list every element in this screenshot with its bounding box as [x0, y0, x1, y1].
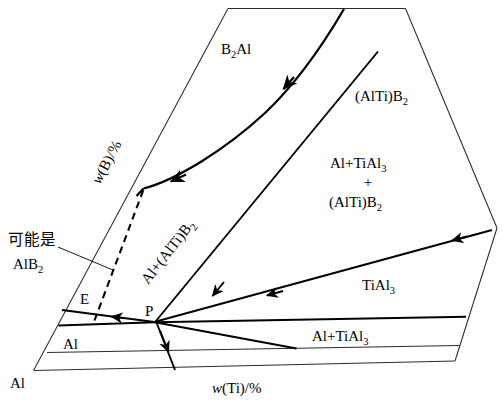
region-label-al: Al: [63, 336, 78, 352]
x-axis-label-w: w: [212, 380, 222, 396]
region-label-al-tial3-main: Al+TiAl: [312, 328, 363, 344]
region-label-tial3: TiAl3: [362, 277, 395, 296]
rl3-plus: +: [364, 174, 372, 190]
rl3-line1-main: Al+TiAl: [330, 155, 381, 171]
svg-text:(AlTi)B2: (AlTi)B2: [355, 88, 408, 107]
svg-text:AlB2: AlB2: [13, 256, 43, 275]
possible-alb2-boundary: [95, 186, 146, 321]
axis-origin-label: Al: [10, 375, 25, 391]
annotation-line2-sub: 2: [38, 264, 43, 275]
p-descending-arrow: [157, 323, 176, 371]
region-label-tial3-sub: 3: [390, 285, 395, 296]
svg-text:Al+TiAl3: Al+TiAl3: [312, 328, 369, 347]
b2al-altib2-curve: [137, 9, 345, 196]
region-label-al-tial3: Al+TiAl3: [312, 328, 369, 347]
svg-text:Al+TiAl3: Al+TiAl3: [330, 155, 387, 174]
y-axis-label-rest: (B)/%: [93, 138, 125, 178]
phase-diagram-figure: B2Al (AlTi)B2 Al+TiAl3 + (AlTi)B2 TiAl3: [0, 0, 503, 405]
annotation-leader-line: [58, 247, 113, 270]
region-label-altib2-sub: 2: [403, 96, 408, 107]
region-label-al-tial3-sub: 3: [363, 336, 368, 347]
svg-text:TiAl3: TiAl3: [362, 277, 395, 296]
point-label-e: E: [80, 291, 89, 307]
region-label-b2al: B2Al: [221, 41, 251, 60]
axis-origin-label-text: Al: [10, 375, 25, 391]
rl3-line1-sub: 3: [381, 163, 386, 174]
annotation-line1: 可能是: [8, 231, 56, 249]
tial3-boundary-line: [156, 230, 492, 322]
point-label-e-text: E: [80, 291, 89, 307]
region-label-al-tial3-altib2: Al+TiAl3 + (AlTi)B2: [329, 155, 387, 213]
altib2-boundary-line: [156, 52, 379, 322]
region-label-altib2-main: (AlTi)B: [355, 88, 403, 105]
svg-text:B2Al: B2Al: [221, 41, 251, 60]
y-axis-label: w(B)/%: [89, 138, 126, 187]
point-label-p: P: [145, 303, 153, 319]
annotation-possible-alb2: 可能是 AlB2: [8, 231, 56, 275]
rl3-line3-main: (AlTi)B: [329, 194, 377, 211]
rl-diag-main: Al+(AlTi)B: [138, 221, 195, 288]
boundary-e-to-p: [62, 310, 155, 322]
internal-boundaries: [47, 317, 466, 353]
region-label-al-text: Al: [63, 336, 78, 352]
x-axis-label: w(Ti)/%: [212, 380, 261, 397]
region-label-b2al-rest: Al: [236, 41, 251, 57]
region-label-tial3-main: TiAl: [362, 277, 390, 293]
region-label-altib2: (AlTi)B2: [355, 88, 408, 107]
svg-text:(AlTi)B2: (AlTi)B2: [329, 194, 382, 213]
svg-text:w(Ti)/%: w(Ti)/%: [212, 380, 261, 397]
point-label-p-text: P: [145, 303, 153, 319]
svg-text:w(B)/%: w(B)/%: [89, 138, 126, 187]
rl3-line3-sub: 2: [377, 202, 382, 213]
annotation-line2-main: AlB: [13, 256, 38, 272]
region-label-b2al-main: B: [221, 41, 231, 57]
x-axis-label-rest: (Ti)/%: [222, 380, 261, 397]
phase-diagram-svg: B2Al (AlTi)B2 Al+TiAl3 + (AlTi)B2 TiAl3: [0, 0, 503, 405]
